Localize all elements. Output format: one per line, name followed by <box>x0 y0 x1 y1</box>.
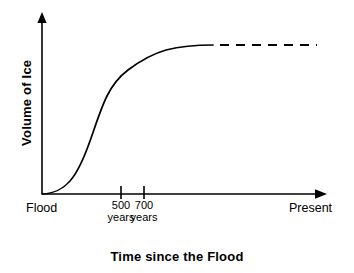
x-axis-title: Time since the Flood <box>0 250 354 264</box>
x-axis-start-label-flood: Flood <box>26 202 57 215</box>
x-axis <box>42 189 327 199</box>
tick-label-700-unit: years <box>122 211 166 223</box>
x-axis-ticks <box>121 186 144 199</box>
x-axis-arrow-icon <box>315 189 327 199</box>
x-axis-tick-label-700: 700 years <box>122 199 166 223</box>
x-axis-end-label-present: Present <box>289 202 332 215</box>
ice-volume-curve-solid <box>42 45 213 194</box>
y-axis-title: Volume of Ice <box>20 53 34 153</box>
ice-volume-chart: Volume of Ice Flood Present 500 years 70… <box>0 0 354 273</box>
y-axis-arrow-icon <box>37 12 46 23</box>
y-axis <box>37 12 46 194</box>
tick-label-700-number: 700 <box>122 199 166 211</box>
chart-plot-area <box>0 0 354 273</box>
